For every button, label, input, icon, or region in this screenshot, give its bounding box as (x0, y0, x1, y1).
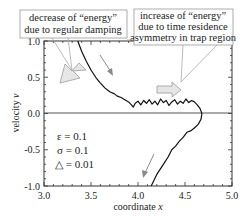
x-tick-label: 5.0 (226, 190, 239, 201)
direction-arrow-lower (142, 154, 154, 178)
y-tick-label: 0.0 (28, 108, 41, 119)
x-axis-label: coordinate x (113, 201, 163, 212)
annotation-line: due to regular damping (24, 24, 122, 35)
y-axis-label: velocity v (10, 93, 21, 133)
y-axis-tick-labels: 1.00.50.0-0.5-1.0 (24, 36, 40, 192)
asymmetry-arrow-icon (157, 82, 181, 97)
annotation-line: increase of “energy” (140, 10, 226, 21)
annotation-asymmetry: increase of “energy” due to time residen… (127, 9, 237, 82)
legend-sigma: σ = 0.1 (57, 144, 88, 156)
annotation-line: asymmetry in trap region (130, 32, 237, 43)
x-tick-label: 3.0 (38, 190, 51, 201)
direction-arrow-upper (100, 55, 113, 76)
pointer-line (181, 45, 217, 82)
x-axis-tick-labels: 3.03.54.04.55.0 (38, 190, 239, 201)
y-tick-label: 0.5 (28, 72, 41, 83)
annotation-line: decrease of “energy” (29, 12, 117, 23)
parameter-legend: ε = 0.1 σ = 0.1 △ = 0.01 (55, 130, 94, 170)
annotation-line: due to time residence (138, 21, 228, 32)
x-tick-label: 4.5 (179, 190, 192, 201)
legend-delta: △ = 0.01 (55, 158, 94, 170)
phase-plot: 1.00.50.0-0.5-1.0 3.03.54.04.55.0 decrea… (0, 0, 250, 222)
y-tick-label: -0.5 (24, 144, 40, 155)
x-tick-label: 3.5 (85, 190, 98, 201)
pointer-line (181, 45, 183, 82)
damping-arrow-icon (60, 63, 86, 83)
arrowhead-icon (142, 170, 148, 178)
x-tick-label: 4.0 (132, 190, 145, 201)
arrowhead-icon (107, 68, 113, 76)
legend-epsilon: ε = 0.1 (57, 130, 87, 142)
